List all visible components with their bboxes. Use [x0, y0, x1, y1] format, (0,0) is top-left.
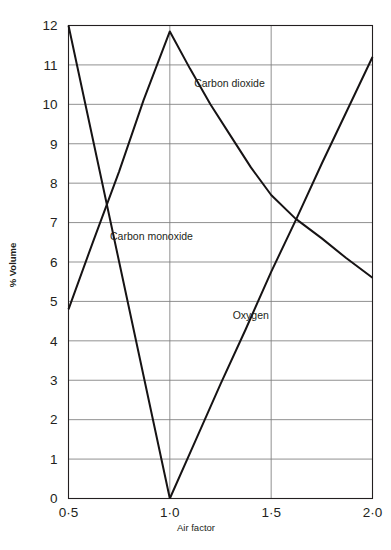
gas-composition-line-chart: 0123456789101112 0·51·01·52·0 Carbon dio… — [0, 0, 391, 550]
y-tick-label-10: 10 — [42, 97, 57, 112]
y-tick-label-3: 3 — [50, 373, 58, 388]
series-label-carbon-dioxide: Carbon dioxide — [194, 77, 265, 89]
y-tick-label-4: 4 — [50, 334, 58, 349]
x-axis-tick-labels: 0·51·01·52·0 — [59, 505, 383, 520]
y-tick-label-7: 7 — [50, 215, 58, 230]
x-axis-title: Air factor — [177, 522, 215, 533]
y-tick-label-12: 12 — [42, 18, 57, 33]
y-tick-label-11: 11 — [43, 58, 57, 73]
chart-figure: 0123456789101112 0·51·01·52·0 Carbon dio… — [0, 0, 391, 550]
x-tick-label-1: 1·0 — [160, 505, 180, 520]
y-tick-label-5: 5 — [50, 294, 58, 309]
y-tick-label-8: 8 — [50, 176, 58, 191]
y-tick-label-1: 1 — [50, 452, 58, 467]
series-label-oxygen: Oxygen — [233, 309, 269, 321]
x-tick-label-1-5: 1·5 — [261, 505, 281, 520]
horizontal-gridlines — [69, 65, 373, 459]
series-line-carbon-dioxide — [69, 31, 373, 309]
x-tick-label-0-5: 0·5 — [59, 505, 79, 520]
series-label-carbon-monoxide: Carbon monoxide — [110, 230, 193, 242]
x-tick-label-2: 2·0 — [363, 505, 383, 520]
y-tick-label-2: 2 — [50, 412, 58, 427]
y-axis-title: % Volume — [7, 243, 18, 288]
series-annotations: Carbon dioxideCarbon monoxideOxygen — [110, 77, 269, 322]
y-tick-label-0: 0 — [50, 491, 58, 506]
y-tick-label-9: 9 — [50, 137, 58, 152]
y-tick-label-6: 6 — [50, 255, 58, 270]
y-axis-tick-labels: 0123456789101112 — [42, 18, 58, 506]
